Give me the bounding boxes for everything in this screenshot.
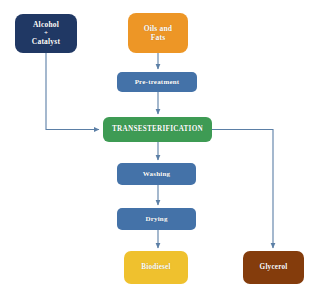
node-washing[interactable]: Washing — [117, 163, 196, 185]
node-glycerol-label: Glycerol — [243, 263, 304, 272]
node-biodiesel-label: Biodiesel — [124, 263, 188, 272]
flowchart-canvas: Alcohol + Catalyst Oils and Fats Pre-tre… — [0, 0, 315, 296]
node-pre-treatment-label: Pre-treatment — [117, 78, 197, 87]
node-washing-label: Washing — [117, 170, 196, 179]
edge-transesterification-to-glycerol — [212, 130, 273, 249]
node-pre-treatment[interactable]: Pre-treatment — [117, 72, 197, 92]
edge-alcohol-to-transesterification — [46, 53, 99, 130]
node-alcohol-label-line2: Catalyst — [17, 37, 75, 46]
node-drying-label: Drying — [117, 215, 196, 224]
node-oils-label: Oils and Fats — [128, 24, 188, 43]
node-drying[interactable]: Drying — [117, 208, 196, 230]
node-glycerol[interactable]: Glycerol — [243, 251, 304, 284]
node-oils-label-line1: Oils and — [144, 24, 173, 33]
node-alcohol-catalyst[interactable]: Alcohol + Catalyst — [15, 14, 77, 53]
node-biodiesel[interactable]: Biodiesel — [124, 251, 188, 284]
node-oils-label-line2: Fats — [151, 33, 166, 42]
node-transesterification[interactable]: TRANSESTERIFICATION — [103, 117, 212, 142]
node-transesterification-label: TRANSESTERIFICATION — [103, 125, 212, 134]
node-oils-and-fats[interactable]: Oils and Fats — [128, 13, 188, 53]
